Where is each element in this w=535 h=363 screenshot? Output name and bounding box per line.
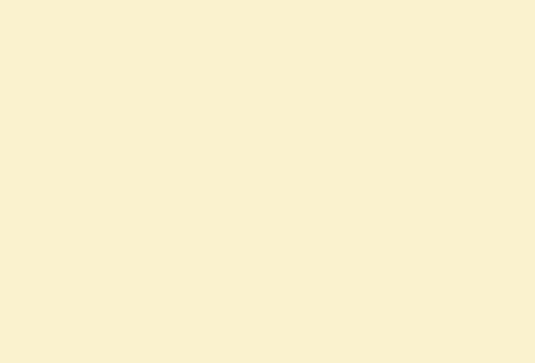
chart-plot-area: [0, 0, 535, 363]
area-chart: [0, 0, 535, 363]
